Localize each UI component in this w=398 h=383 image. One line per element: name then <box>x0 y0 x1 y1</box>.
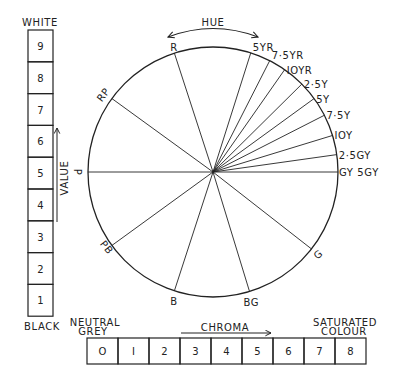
value-cell-label: 8 <box>37 73 43 84</box>
chroma-left-label-line2: GREY <box>78 326 108 337</box>
chroma-cell-label: 6 <box>285 346 291 357</box>
hue-spoke <box>213 115 324 172</box>
value-bottom-label: BLACK <box>24 321 60 332</box>
munsell-diagram: WHITE 987654321 BLACK VALUE R5YR7·5YRIOY… <box>0 0 398 383</box>
hue-spoke <box>213 172 312 249</box>
value-title: VALUE <box>59 161 70 196</box>
hue-label: BG <box>244 297 260 308</box>
hue-label: 2·5Y <box>304 79 329 90</box>
hue-spoke <box>112 172 213 245</box>
chroma-cell-label: I <box>132 346 135 357</box>
hue-spoke <box>213 155 337 172</box>
hue-spoke <box>112 99 213 172</box>
value-top-label: WHITE <box>22 17 58 28</box>
chroma-cell-label: 4 <box>223 346 229 357</box>
hue-spoke <box>213 61 270 172</box>
value-cell-label: 9 <box>37 41 43 52</box>
hue-spoke <box>213 99 314 172</box>
value-scale: WHITE 987654321 BLACK VALUE <box>22 17 70 332</box>
chroma-cell-label: 8 <box>347 346 353 357</box>
hue-label: P <box>72 169 83 176</box>
hue-spoke <box>174 53 213 172</box>
hue-label: IOY <box>335 130 353 141</box>
value-cell-label: 6 <box>37 136 43 147</box>
value-cell-label: 2 <box>37 264 43 275</box>
hue-label: G <box>312 248 325 262</box>
value-cell-label: 4 <box>37 200 43 211</box>
chroma-right-label-line2: COLOUR <box>321 326 367 337</box>
chroma-cell-label: 3 <box>192 346 198 357</box>
hue-spoke <box>213 70 285 172</box>
hue-label: GY 5GY <box>339 167 379 178</box>
hue-label: 2·5GY <box>339 150 372 161</box>
chroma-scale: NEUTRAL GREY CHROMA SATURATED COLOUR OI2… <box>70 317 377 364</box>
hue-label: 5Y <box>316 94 330 105</box>
value-cell-label: 3 <box>37 232 43 243</box>
hue-spoke <box>213 172 250 292</box>
chroma-cell-label: 7 <box>316 346 322 357</box>
hue-title: HUE <box>202 17 225 28</box>
value-cell-label: 5 <box>37 168 43 179</box>
hue-spoke <box>213 53 251 172</box>
chroma-title: CHROMA <box>201 322 249 333</box>
hue-label: B <box>170 296 177 307</box>
hue-label: IOYR <box>287 65 313 76</box>
hue-wheel: R5YR7·5YRIOYR2·5Y5Y7·5YIOY2·5GYGY 5GYGBG… <box>72 17 379 308</box>
chroma-cell-label: 2 <box>161 346 167 357</box>
hue-spoke <box>174 172 213 291</box>
hue-label: 7·5YR <box>272 50 304 61</box>
chroma-cell-label: 5 <box>254 346 260 357</box>
hue-label: R <box>170 42 178 53</box>
hue-label: 7·5Y <box>326 110 351 121</box>
value-cell-label: 7 <box>37 105 43 116</box>
hue-label: PB <box>98 238 115 256</box>
chroma-cell-label: O <box>99 346 107 357</box>
value-cell-label: 1 <box>37 295 43 306</box>
hue-arrow <box>168 29 258 38</box>
